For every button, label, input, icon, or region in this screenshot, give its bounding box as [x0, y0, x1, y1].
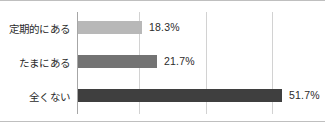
plot-area: 定期的にある 18.3% たまにある 21.7% 全くない 51.7%	[77, 12, 317, 114]
bar-segment	[78, 55, 157, 68]
bar-row: たまにある 21.7%	[77, 46, 317, 80]
bar-row: 全くない 51.7%	[77, 80, 317, 114]
category-label: 定期的にある	[9, 12, 70, 46]
category-label: たまにある	[19, 46, 70, 80]
category-label: 全くない	[29, 80, 70, 114]
bar-row: 定期的にある 18.3%	[77, 12, 317, 46]
bar-value-label: 51.7%	[289, 89, 320, 102]
bar-value-label: 21.7%	[164, 55, 195, 68]
bar-value-label: 18.3%	[149, 21, 180, 34]
bar-segment	[78, 89, 282, 102]
bar-chart: 定期的にある 18.3% たまにある 21.7% 全くない 51.7%	[0, 0, 325, 122]
bar-segment	[78, 21, 142, 34]
